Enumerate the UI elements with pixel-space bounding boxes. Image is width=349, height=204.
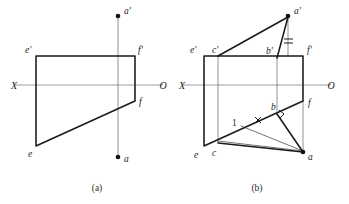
diagram-b-label-f: f — [308, 98, 312, 108]
diagram-a-label-a-prime: a' — [124, 6, 132, 16]
caption-b: (b) — [251, 183, 262, 194]
diagram-b-label-b-prime: b' — [266, 46, 274, 56]
diagram-b-label-e: e — [194, 150, 198, 160]
caption-a: (a) — [92, 183, 103, 194]
diagram-a-label-e-prime: e' — [25, 45, 32, 55]
diagram-a: X O a' a e' f' f e — [10, 6, 167, 164]
diagram-b-label-a: a — [308, 152, 313, 162]
diagram-b-label-f-prime: f' — [307, 45, 313, 55]
diagram-b-point-a-dot — [301, 150, 306, 155]
diagram-a-label-f: f — [139, 97, 143, 107]
diagram-b-line-aprime-cprime — [218, 17, 288, 56]
diagram-b-line-c-a — [218, 143, 303, 152]
diagram-b-line-aprime-bprime — [277, 17, 288, 58]
diagram-b-label-c-prime: c' — [212, 45, 219, 55]
diagram-b-axis-label-o: O — [327, 80, 334, 91]
diagram-b-label-b: b — [271, 102, 276, 112]
diagram-a-label-a: a — [124, 154, 129, 164]
diagram-b-equal-length-hatch — [284, 39, 293, 43]
diagram-a-label-e: e — [28, 149, 32, 159]
diagram-b-point-a-prime-dot — [286, 14, 291, 19]
diagram-b-line-b-a — [277, 114, 303, 152]
diagram-a-point-a-prime-dot — [116, 14, 121, 19]
diagram-a-point-a-dot — [116, 155, 121, 160]
figure-root: X O a' a e' f' f e — [0, 0, 349, 204]
diagram-b-plane-outline — [204, 56, 303, 146]
diagram-b-label-c: c — [212, 148, 217, 158]
diagram-a-label-f-prime: f' — [138, 45, 144, 55]
diagram-a-plane-outline — [36, 56, 135, 146]
figure-canvas: X O a' a e' f' f e — [0, 0, 349, 204]
diagram-b-label-e-prime: e' — [190, 45, 197, 55]
diagram-a-axis-label-o: O — [159, 80, 166, 91]
diagram-a-axis-label-x: X — [10, 80, 18, 91]
diagram-b-axis-label-x: X — [178, 80, 186, 91]
diagram-b: X O a' a b' b c' c e' e f' f 1 — [178, 6, 335, 162]
diagram-b-label-a-prime: a' — [294, 6, 302, 16]
diagram-b-label-point-1: 1 — [232, 118, 237, 128]
